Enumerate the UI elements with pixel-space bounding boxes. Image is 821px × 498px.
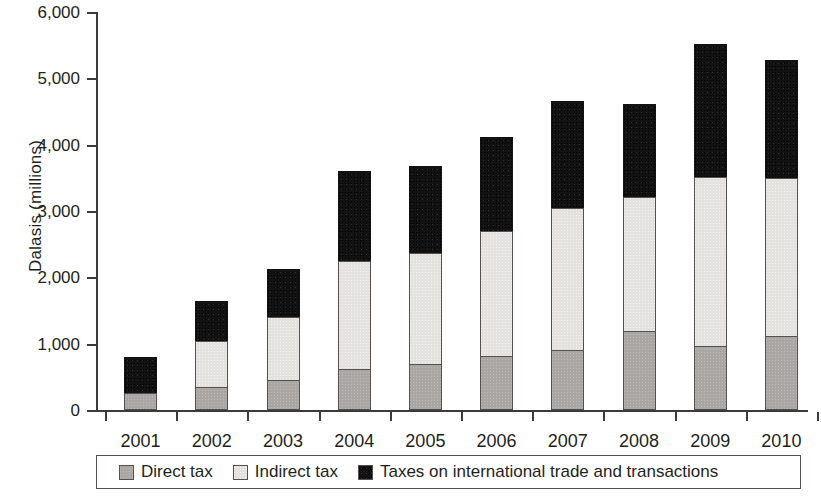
y-axis-tick-label: 1,000 [0,336,80,353]
bar-2001 [124,357,157,410]
bar-segment-2004-direct-tax [338,369,371,410]
x-axis-label-2003: 2003 [243,431,323,451]
legend-label-trade-tax: Taxes on international trade and transac… [380,463,718,481]
y-axis-tick-label: 3,000 [0,203,80,220]
x-axis-tick [319,412,321,421]
y-axis-tick-label: 4,000 [0,137,80,154]
bar-segment-2010-taxes-on-international-trade-and-transactions [765,60,798,177]
bar-segment-2007-indirect-tax [551,208,584,351]
bar-segment-2007-direct-tax [551,350,584,410]
bar-segment-2007-taxes-on-international-trade-and-transactions [551,101,584,208]
legend-item-indirect-tax: Indirect tax [233,463,338,481]
trade-tax-swatch [358,465,373,480]
y-axis-tick-label: 6,000 [0,4,80,21]
plot-area: 01,0002,0003,0004,0005,0006,000 20012002… [96,12,808,412]
x-axis-tick [817,412,819,421]
y-axis-line [96,12,98,412]
bar-segment-2009-indirect-tax [694,177,727,346]
legend-label-direct-tax: Direct tax [141,463,213,481]
bar-2004 [338,171,371,410]
y-axis-tick [87,211,96,213]
bar-segment-2001-direct-tax [124,393,157,410]
bar-segment-2005-indirect-tax [409,253,442,364]
bar-segment-2002-indirect-tax [195,341,228,387]
x-axis-label-2004: 2004 [314,431,394,451]
y-axis-tick-label: 5,000 [0,70,80,87]
bar-2002 [195,301,228,410]
bar-segment-2006-direct-tax [480,356,513,410]
x-axis-label-2006: 2006 [457,431,537,451]
bar-segment-2006-indirect-tax [480,231,513,356]
x-axis-tick [105,412,107,421]
bar-segment-2006-taxes-on-international-trade-and-transactions [480,137,513,231]
x-axis-tick [176,412,178,421]
y-axis-tick [87,277,96,279]
bar-segment-2010-direct-tax [765,336,798,410]
y-axis-tick [87,12,96,14]
bar-segment-2008-direct-tax [623,331,656,410]
bar-segment-2005-taxes-on-international-trade-and-transactions [409,166,442,253]
indirect-tax-swatch [233,465,248,480]
bar-segment-2010-indirect-tax [765,178,798,337]
bar-2008 [623,104,656,410]
bar-segment-2001-taxes-on-international-trade-and-transactions [124,357,157,393]
bar-segment-2004-taxes-on-international-trade-and-transactions [338,171,371,261]
y-axis-tick-label: 2,000 [0,269,80,286]
x-axis-tick [247,412,249,421]
bar-segment-2004-indirect-tax [338,261,371,369]
bar-segment-2009-taxes-on-international-trade-and-transactions [694,44,727,177]
chart-legend: Direct tax Indirect tax Taxes on interna… [96,455,801,489]
bar-segment-2005-direct-tax [409,364,442,410]
x-axis-tick [390,412,392,421]
legend-label-indirect-tax: Indirect tax [255,463,338,481]
y-axis-tick [87,410,96,412]
x-axis-label-2001: 2001 [101,431,181,451]
x-axis-tick [603,412,605,421]
y-axis-tick [87,145,96,147]
bar-2005 [409,166,442,410]
bar-2009 [694,44,727,410]
bar-segment-2003-direct-tax [267,380,300,410]
x-axis-tick [532,412,534,421]
bar-segment-2008-taxes-on-international-trade-and-transactions [623,104,656,197]
x-axis-tick [746,412,748,421]
bar-segment-2003-taxes-on-international-trade-and-transactions [267,269,300,317]
legend-item-direct-tax: Direct tax [119,463,213,481]
bar-2003 [267,269,300,410]
legend-item-trade-tax: Taxes on international trade and transac… [358,463,718,481]
bar-segment-2002-direct-tax [195,387,228,410]
x-axis-label-2010: 2010 [741,431,821,451]
x-axis-label-2009: 2009 [670,431,750,451]
bar-segment-2002-taxes-on-international-trade-and-transactions [195,301,228,341]
x-axis-label-2008: 2008 [599,431,679,451]
x-axis-tick [461,412,463,421]
bar-2010 [765,60,798,410]
x-axis-tick [675,412,677,421]
bar-2006 [480,137,513,410]
y-axis-tick [87,344,96,346]
bar-segment-2009-direct-tax [694,346,727,410]
x-axis-line [96,410,808,412]
direct-tax-swatch [119,465,134,480]
bar-segment-2008-indirect-tax [623,197,656,331]
y-axis-tick-label: 0 [0,402,80,419]
x-axis-label-2007: 2007 [528,431,608,451]
x-axis-label-2002: 2002 [172,431,252,451]
x-axis-label-2005: 2005 [385,431,465,451]
bar-segment-2003-indirect-tax [267,317,300,380]
y-axis-tick [87,78,96,80]
bar-2007 [551,101,584,410]
